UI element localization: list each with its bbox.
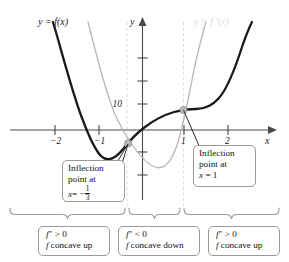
brace-interval-2 bbox=[129, 208, 180, 219]
brace-interval-3 bbox=[184, 208, 279, 219]
brace-interval-1 bbox=[10, 208, 125, 219]
x-axis-label: x bbox=[264, 135, 270, 146]
concavity-box-2-rel: ″ < 0 bbox=[129, 229, 147, 239]
concavity-box-1-rel: ″ > 0 bbox=[49, 229, 67, 239]
concavity-box-3-desc: concave up bbox=[219, 240, 263, 250]
concavity-box-2-line2: f concave down bbox=[119, 240, 199, 251]
callout-right-line2: point at bbox=[199, 159, 251, 170]
y-tick-label-10: 10 bbox=[113, 99, 123, 109]
x-tick-label-neg1: −1 bbox=[94, 136, 105, 146]
figure-canvas: x y −2 −1 1 2 10 y = f(x) y = f ′(x) bbox=[0, 0, 289, 262]
callout-right-line3: x = 1 bbox=[199, 170, 251, 181]
concavity-box-2-desc: concave down bbox=[129, 240, 184, 250]
concavity-box-1-line1: f″ > 0 bbox=[39, 229, 109, 240]
inflection-point-marker-left bbox=[124, 140, 131, 147]
leader-line-right bbox=[184, 110, 201, 148]
curve-f bbox=[53, 22, 252, 159]
callout-inflection-left: Inflection point at x= −13 bbox=[62, 160, 125, 202]
concavity-box-2-line1: f″ < 0 bbox=[119, 229, 199, 240]
x-axis-arrow bbox=[268, 126, 277, 134]
callout-left-eq: = − bbox=[72, 189, 85, 199]
concavity-box-1-desc: concave up bbox=[49, 240, 93, 250]
callout-left-line2: point at bbox=[68, 174, 120, 185]
curve-f-prime bbox=[88, 22, 206, 168]
callout-left-line1: Inflection bbox=[68, 163, 120, 174]
concavity-figure: x y −2 −1 1 2 10 y = f(x) y = f ′(x) Inf… bbox=[0, 0, 289, 262]
callout-left-fraction: 13 bbox=[85, 185, 91, 201]
concavity-box-3-rel: ″ > 0 bbox=[219, 229, 237, 239]
callout-left-line3: x= −13 bbox=[68, 185, 120, 201]
y-axis-label: y bbox=[129, 16, 135, 27]
y-axis-arrow bbox=[139, 17, 147, 26]
concavity-box-1: f″ > 0 f concave up bbox=[38, 226, 110, 256]
callout-right-eq: = 1 bbox=[205, 170, 217, 180]
concavity-box-3-line2: f concave up bbox=[209, 240, 279, 251]
concavity-box-1-line2: f concave up bbox=[39, 240, 109, 251]
concavity-box-2: f″ < 0 f concave down bbox=[118, 226, 200, 256]
x-tick-label-neg2: −2 bbox=[50, 136, 61, 146]
concavity-box-3-line1: f″ > 0 bbox=[209, 229, 279, 240]
callout-inflection-right: Inflection point at x = 1 bbox=[193, 145, 256, 187]
fraction-denominator: 3 bbox=[85, 194, 91, 202]
x-tick-label-1: 1 bbox=[181, 136, 186, 146]
curve-f-prime-label: y = f ′(x) bbox=[193, 16, 229, 28]
curve-f-label: y = f(x) bbox=[37, 16, 69, 28]
callout-right-line1: Inflection bbox=[199, 148, 251, 159]
callout-right-var: x bbox=[199, 170, 203, 180]
concavity-box-3: f″ > 0 f concave up bbox=[208, 226, 280, 256]
